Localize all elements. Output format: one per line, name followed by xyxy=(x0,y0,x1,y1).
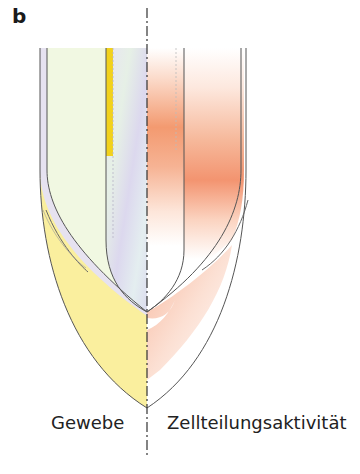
root-tip-diagram xyxy=(0,0,360,474)
caption-cell-division-activity: Zellteilungsaktivität xyxy=(167,412,346,433)
pericycle-band xyxy=(106,48,113,156)
tissue-half xyxy=(40,48,147,408)
division-activity-half xyxy=(147,48,248,408)
caption-tissue: Gewebe xyxy=(51,412,124,433)
activity-inner xyxy=(147,48,184,312)
